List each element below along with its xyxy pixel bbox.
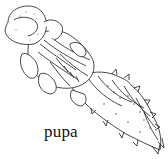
caption-pupa: pupa [44, 122, 78, 142]
pupa-illustration [0, 0, 168, 159]
